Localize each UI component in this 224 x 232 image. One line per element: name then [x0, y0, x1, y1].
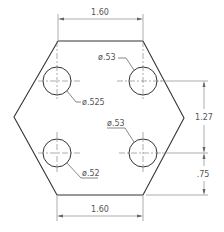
hole-spacing-label: 1.27 — [195, 113, 213, 122]
hole-upper-left: ø.525 — [38, 41, 105, 107]
hole-lower-right: ø.53 — [107, 119, 162, 172]
bottom-width-dimension: 1.60 — [57, 196, 143, 221]
hole-upper-left-callout: ø.525 — [82, 98, 105, 107]
hole-upper-right: ø.53 — [98, 41, 162, 100]
bottom-width-label: 1.60 — [91, 205, 109, 214]
bottom-offset-label: .75 — [197, 170, 210, 179]
hole-lower-left-callout: ø.52 — [82, 169, 100, 178]
right-vertical-dimensions: 1.27 .75 — [146, 81, 213, 195]
technical-drawing: 1.60 1.60 1.27 .75 ø.525 — [0, 0, 224, 232]
hole-lower-left: ø.52 — [38, 132, 100, 178]
top-width-dimension: 1.60 — [58, 8, 143, 40]
top-width-label: 1.60 — [91, 8, 109, 17]
hole-upper-right-callout: ø.53 — [98, 53, 116, 62]
hole-lower-right-callout: ø.53 — [107, 119, 125, 128]
